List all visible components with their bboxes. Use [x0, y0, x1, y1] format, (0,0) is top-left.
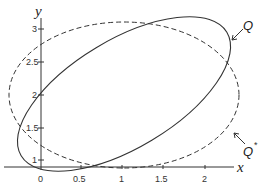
x-tick-1: 1	[119, 174, 124, 184]
x-tick-1.5: 1.5	[155, 174, 168, 184]
q-star-label: Q	[243, 144, 253, 159]
q-label: Q	[243, 18, 253, 33]
y-tick-1.5: 1.5	[26, 123, 39, 133]
x-axis-label: x	[236, 159, 244, 175]
y-axis-label: y	[33, 3, 42, 19]
x-tick-0: 0	[38, 174, 43, 184]
y-tick-1: 1	[32, 155, 37, 165]
y-tick-2.5: 2.5	[26, 57, 39, 67]
y-tick-2: 2	[32, 90, 37, 100]
plot-canvas: 0 0.5 1 1.5 2 1 1.5 2 2.5 3 x y Q Q *	[0, 0, 262, 187]
x-tick-2: 2	[202, 174, 207, 184]
q-star-superscript: *	[254, 140, 258, 150]
x-tick-0.5: 0.5	[73, 174, 86, 184]
q-star-arrow	[234, 133, 245, 144]
q-arrow	[232, 29, 243, 40]
curve-q	[0, 0, 255, 187]
y-tick-3: 3	[32, 24, 37, 34]
